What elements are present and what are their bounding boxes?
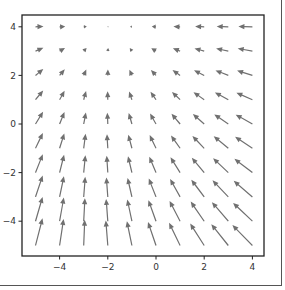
x-tick-label: 0 bbox=[153, 262, 159, 272]
x-axis-ticks: −4−2024 bbox=[53, 256, 256, 272]
y-tick-label: −4 bbox=[3, 216, 17, 226]
x-tick-label: 2 bbox=[201, 262, 207, 272]
y-tick-label: −2 bbox=[3, 168, 16, 178]
y-tick-label: 4 bbox=[10, 22, 16, 32]
x-tick-label: 4 bbox=[250, 262, 256, 272]
y-axis-ticks: 420−2−4 bbox=[3, 22, 22, 226]
x-tick-label: −4 bbox=[53, 262, 67, 272]
y-tick-label: 0 bbox=[10, 119, 16, 129]
x-tick-label: −2 bbox=[101, 262, 114, 272]
y-tick-label: 2 bbox=[10, 71, 16, 81]
quiver-plot: −4−2024 420−2−4 bbox=[0, 0, 285, 290]
